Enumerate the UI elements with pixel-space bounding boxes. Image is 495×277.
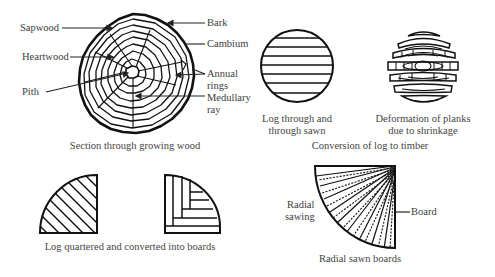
quartered-log-diagonal	[30, 170, 119, 233]
through-sawn-log	[255, 30, 340, 102]
label-heartwood: Heartwood	[22, 51, 69, 63]
caption-deformation-line2: due to shrinkage	[368, 125, 478, 137]
caption-growing-wood: Section through growing wood	[60, 140, 210, 152]
caption-through-sawn-line1: Log through and	[252, 113, 342, 125]
caption-conversion: Conversion of log to timber	[305, 140, 435, 152]
caption-radial: Radial sawn boards	[310, 253, 410, 265]
caption-deformation-line1: Deformation of planks	[368, 113, 478, 125]
label-board: Board	[411, 206, 437, 218]
label-medullary-ray-line2: ray	[207, 104, 220, 116]
label-sapwood: Sapwood	[20, 22, 59, 34]
log-cross-section	[79, 14, 194, 133]
quartered-log-nested	[165, 175, 220, 233]
caption-quartered: Log quartered and converted into boards	[40, 241, 220, 253]
label-annual-rings-line2: rings	[207, 80, 228, 92]
label-bark: Bark	[207, 17, 227, 29]
caption-through-sawn-line2: through sawn	[252, 125, 342, 137]
label-radial-sawing-line2: sawing	[285, 211, 315, 223]
radial-sawn-quarter	[315, 166, 410, 249]
label-medullary-ray-line1: Medullary	[207, 92, 251, 104]
deformed-planks	[388, 32, 458, 102]
label-cambium: Cambium	[207, 38, 248, 50]
label-pith: Pith	[22, 86, 39, 98]
leader-lines-right	[136, 21, 205, 99]
label-radial-sawing-line1: Radial	[287, 199, 314, 211]
label-annual-rings-line1: Annual	[207, 68, 238, 80]
